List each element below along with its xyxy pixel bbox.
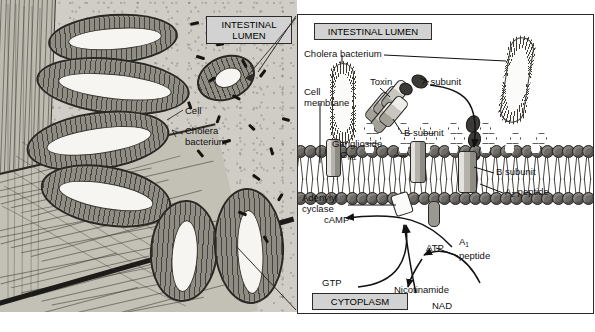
lipid-tail bbox=[481, 156, 485, 180]
lipid-tail bbox=[578, 156, 582, 180]
lipid-tail bbox=[392, 156, 396, 180]
label-atp: ATP bbox=[426, 243, 444, 254]
lipid-tail bbox=[320, 156, 324, 180]
b-subunit-pore-complex bbox=[458, 151, 477, 193]
lipid-tail bbox=[306, 156, 310, 180]
ganglioside-receptor-complex bbox=[410, 141, 426, 183]
label-a1-peptide: A1peptide bbox=[459, 237, 490, 261]
lipid-tail bbox=[485, 156, 489, 180]
lipid-tail bbox=[403, 156, 407, 180]
lipid-tail bbox=[382, 156, 386, 180]
lipid-tail bbox=[564, 156, 568, 180]
label-adenylyl-cyclase: Adenylylcyclase bbox=[302, 193, 338, 214]
lipid-tail bbox=[584, 156, 588, 180]
label-cell-membrane: Cellmembrane bbox=[304, 87, 349, 108]
label-toxin: Toxin bbox=[370, 77, 392, 88]
lipid-tail bbox=[300, 156, 304, 180]
lipid-tail bbox=[568, 156, 572, 180]
lipid-tail bbox=[444, 156, 448, 180]
ganglioside-sugar-hexagon bbox=[510, 133, 521, 144]
lipid-tail bbox=[378, 156, 382, 180]
label-ganglioside-gm1-subscript: GM1 bbox=[340, 150, 356, 164]
label-ganglioside: Ganglioside bbox=[332, 139, 382, 150]
label-nicotinamide: NAD bbox=[432, 301, 452, 312]
lipid-tail bbox=[588, 156, 592, 180]
lipid-tail bbox=[372, 156, 376, 180]
a1-peptide-body bbox=[428, 201, 440, 227]
lipid-tail bbox=[553, 156, 557, 180]
label-cholera-bacterium: Cholera bacterium bbox=[304, 49, 382, 60]
lipid-tail bbox=[430, 156, 434, 180]
cholera-toxin-mechanism-panel: INTESTINAL LUMEN bbox=[297, 14, 594, 314]
intestinal-histology-illustration bbox=[0, 0, 297, 312]
caption-intestinal-lumen-left: INTESTINALLUMEN bbox=[206, 16, 292, 44]
lipid-tail bbox=[316, 156, 320, 180]
caption-intestinal-lumen-right: INTESTINAL LUMEN bbox=[314, 23, 432, 40]
lipid-tail bbox=[399, 156, 403, 180]
lipid-tail bbox=[358, 156, 362, 180]
ganglioside-sugar-hexagon bbox=[486, 133, 497, 144]
bacterium-fringe bbox=[496, 33, 538, 126]
lipid-tail bbox=[434, 156, 438, 180]
figure-canvas: INTESTINALLUMEN Cell Cholerabacterium IN… bbox=[0, 0, 595, 332]
lipid-tail bbox=[310, 156, 314, 180]
label-gtp: GTP bbox=[322, 278, 342, 289]
lipid-tail bbox=[362, 156, 366, 180]
lipid-tail bbox=[440, 156, 444, 180]
lipid-tail bbox=[537, 156, 541, 180]
label-cholera-bacterium: Cholerabacterium bbox=[185, 126, 227, 147]
lipid-tail bbox=[543, 156, 547, 180]
caption-cytoplasm: CYTOPLASM bbox=[312, 293, 408, 310]
lipid-tail bbox=[297, 156, 299, 180]
lipid-tail bbox=[368, 156, 372, 180]
label-a2-peptide: A2 peptide bbox=[505, 187, 549, 201]
cholera-bacterium-right bbox=[498, 36, 535, 125]
label-a-subunit: A subunit bbox=[422, 77, 461, 88]
ganglioside-sugar-hexagon bbox=[536, 133, 547, 144]
label-cell: Cell bbox=[185, 106, 201, 117]
label-b-subunit-right: B subunit bbox=[496, 167, 536, 178]
lipid-tail bbox=[557, 156, 561, 180]
ganglioside-sugar-hexagon bbox=[454, 133, 465, 144]
lipid-tail bbox=[388, 156, 392, 180]
lipid-tail bbox=[547, 156, 551, 180]
lipid-tail bbox=[491, 156, 495, 180]
lipid-tail bbox=[450, 156, 454, 180]
ganglioside-sugar-hexagon bbox=[448, 123, 459, 134]
label-b-subunit-upper: B subunit bbox=[404, 128, 444, 139]
lipid-tail bbox=[574, 156, 578, 180]
label-camp: cAMP bbox=[324, 215, 349, 226]
ganglioside-sugar-hexagon bbox=[480, 123, 491, 134]
